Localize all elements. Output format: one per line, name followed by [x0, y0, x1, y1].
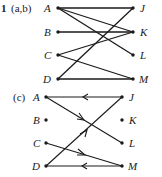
- arrow-d-to-j-icon: [80, 130, 87, 137]
- directed-graph-c: [0, 0, 162, 177]
- node-c-dot-c: [44, 141, 47, 144]
- node-k-dot-c: [120, 118, 123, 121]
- node-a-dot-c: [44, 95, 47, 98]
- node-m-dot-c: [120, 164, 123, 167]
- node-l-dot-c: [120, 141, 123, 144]
- node-d-dot-c: [44, 164, 47, 167]
- node-j-dot-c: [120, 95, 123, 98]
- node-b-dot-c: [44, 118, 47, 121]
